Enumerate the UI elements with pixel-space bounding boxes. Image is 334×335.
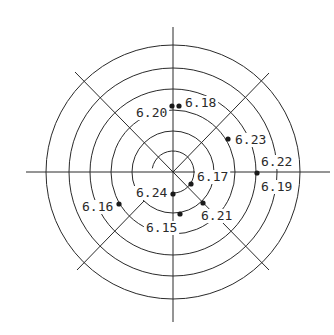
value-label: 6.21 <box>201 208 232 223</box>
point-marker <box>188 181 193 186</box>
axes <box>26 27 330 322</box>
value-label: 6.18 <box>185 95 216 110</box>
value-label: 6.19 <box>261 179 292 194</box>
point-marker <box>169 103 174 108</box>
point-marker <box>176 103 181 108</box>
value-label: 6.20 <box>136 105 167 120</box>
value-label: 6.22 <box>261 154 292 169</box>
point-marker <box>254 170 259 175</box>
point-marker <box>116 201 121 206</box>
point-marker <box>200 200 205 205</box>
value-label: 6.23 <box>235 132 266 147</box>
value-label: 6.15 <box>146 220 177 235</box>
point-marker <box>177 211 182 216</box>
value-label: 6.16 <box>82 199 113 214</box>
point-marker <box>225 136 230 141</box>
diagonal-upper-left <box>75 72 173 172</box>
value-label: 6.17 <box>197 169 228 184</box>
value-label: 6.24 <box>136 185 167 200</box>
polar-diagram: 6.206.186.236.226.196.176.246.216.156.16 <box>0 0 334 335</box>
point-marker <box>170 191 175 196</box>
